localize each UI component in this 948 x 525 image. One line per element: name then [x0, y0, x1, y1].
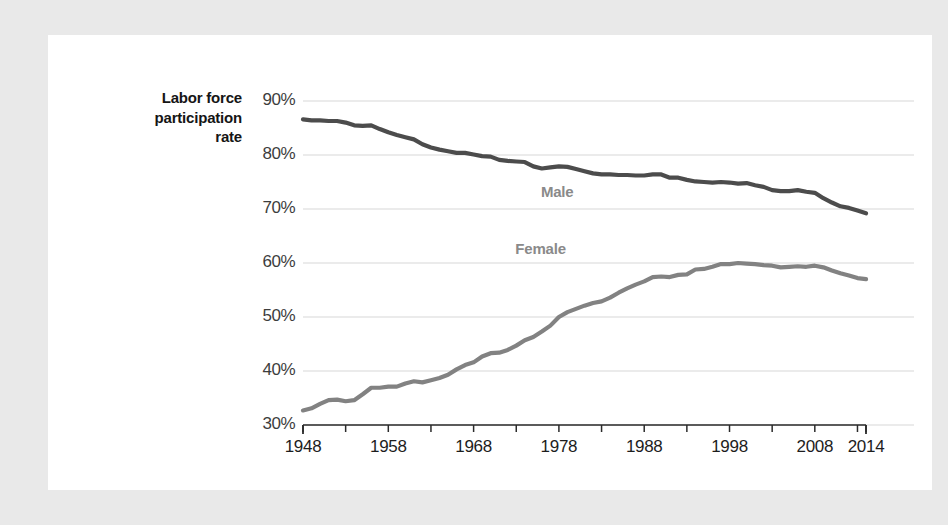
chart-figure: Labor force participation rate 90%80%70%… [48, 35, 932, 490]
x-axis-tick-label-1968: 1968 [439, 437, 509, 457]
y-axis-tick-label-80: 80% [241, 144, 295, 164]
x-axis-tick-label-1988: 1988 [609, 437, 679, 457]
y-axis-tick-label-90: 90% [241, 90, 295, 110]
y-axis-tick-label-60: 60% [241, 252, 295, 272]
x-axis-tick-label-1948: 1948 [268, 437, 338, 457]
series-line-female [303, 263, 866, 410]
series-label-female: Female [515, 240, 566, 257]
x-axis-tick-label-1958: 1958 [353, 437, 423, 457]
x-axis-tick-label-1998: 1998 [695, 437, 765, 457]
y-axis-tick-label-40: 40% [241, 360, 295, 380]
series-line-male [303, 119, 866, 213]
line-chart-plot [48, 35, 932, 490]
y-axis-tick-label-70: 70% [241, 198, 295, 218]
y-axis-tick-label-50: 50% [241, 306, 295, 326]
chart-card: Labor force participation rate 90%80%70%… [48, 35, 932, 490]
x-axis-tick-label-2014: 2014 [831, 437, 901, 457]
y-axis-tick-label-30: 30% [241, 414, 295, 434]
page-root: Labor force participation rate 90%80%70%… [0, 0, 948, 525]
series-label-male: Male [541, 183, 574, 200]
x-axis-tick-label-1978: 1978 [524, 437, 594, 457]
